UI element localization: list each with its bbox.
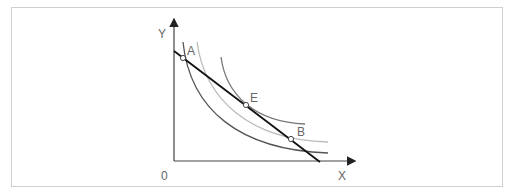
diagram-canvas: A E B Y X 0 [0, 0, 510, 194]
label-e: E [250, 91, 258, 105]
x-axis-label: X [338, 169, 346, 183]
y-axis-label: Y [158, 27, 166, 41]
point-b [288, 136, 293, 141]
origin-label: 0 [161, 169, 168, 183]
indifference-curve-mid [197, 42, 328, 142]
label-a: A [187, 44, 195, 58]
label-b: B [297, 125, 305, 139]
point-a [180, 55, 185, 60]
indifference-curve-high [221, 57, 305, 124]
point-e [243, 102, 248, 107]
